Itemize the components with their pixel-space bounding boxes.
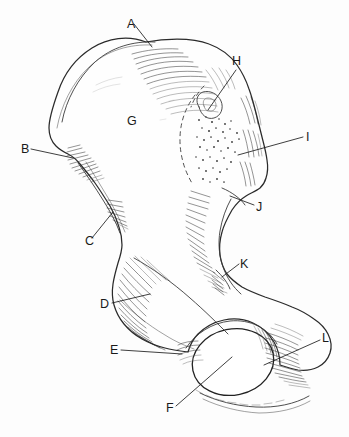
label-e: E: [110, 343, 119, 357]
hip-bone-illustration: A B C D E F G H I J K L: [0, 0, 349, 437]
label-h: H: [232, 54, 241, 68]
label-b: B: [21, 142, 30, 156]
leader-line-e: [121, 350, 182, 354]
label-j: J: [256, 200, 262, 214]
label-k: K: [240, 257, 249, 271]
label-g: G: [127, 114, 137, 128]
label-f: F: [166, 401, 174, 415]
os-coxae-drawing: [49, 38, 331, 413]
label-l: L: [322, 331, 329, 345]
bone-outline: [49, 38, 331, 370]
label-i: I: [306, 130, 310, 144]
hip-bone-figure: A B C D E F G H I J K L: [0, 0, 349, 437]
leader-line-c: [92, 212, 113, 238]
label-a: A: [127, 17, 136, 31]
label-c: C: [85, 234, 94, 248]
label-d: D: [100, 297, 109, 311]
